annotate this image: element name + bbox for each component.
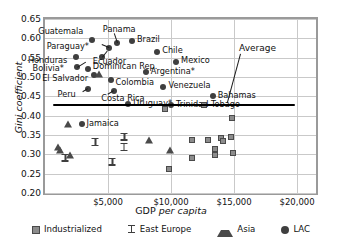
gridline-horizontal bbox=[45, 154, 316, 155]
triangle-marker-icon bbox=[217, 222, 233, 237]
data-point-square[interactable] bbox=[212, 152, 218, 158]
gini-gdp-scatter-chart: Gini coefficient GDP per capita 0.200.25… bbox=[0, 0, 342, 241]
data-point-circle[interactable] bbox=[108, 77, 114, 83]
data-point-square[interactable] bbox=[189, 137, 195, 143]
data-point-square[interactable] bbox=[229, 115, 235, 121]
x-axis-tick-label: $20,000 bbox=[280, 197, 315, 207]
data-point-square[interactable] bbox=[189, 155, 195, 161]
data-point-square[interactable] bbox=[220, 138, 226, 144]
data-point-ibar[interactable] bbox=[62, 154, 69, 162]
data-point-label: Bolivia* bbox=[33, 64, 64, 72]
y-axis-tick-label: 0.25 bbox=[21, 169, 41, 179]
data-point-label: Venezuela bbox=[168, 81, 210, 89]
x-axis-tick-label: $5,000 bbox=[93, 197, 123, 207]
ibar-marker-icon bbox=[128, 225, 136, 233]
data-point-triangle[interactable] bbox=[56, 147, 64, 154]
average-annotation-label: Average bbox=[239, 43, 276, 53]
gridline-horizontal bbox=[45, 135, 316, 136]
legend-label-lac: LAC bbox=[293, 224, 310, 234]
data-point-triangle[interactable] bbox=[95, 70, 103, 77]
legend-label-asia: Asia bbox=[237, 224, 255, 234]
data-point-circle[interactable] bbox=[173, 59, 179, 65]
data-point-square[interactable] bbox=[228, 134, 234, 140]
data-point-triangle[interactable] bbox=[145, 136, 153, 143]
data-point-label: Brazil bbox=[137, 35, 160, 43]
legend-item-asia[interactable]: Asia bbox=[217, 221, 255, 237]
chart-legend: Industrialized East Europe Asia LAC bbox=[0, 221, 342, 237]
data-point-square[interactable] bbox=[166, 166, 172, 172]
data-point-square[interactable] bbox=[162, 106, 168, 112]
data-point-circle[interactable] bbox=[73, 54, 79, 60]
data-point-triangle[interactable] bbox=[166, 147, 174, 154]
data-point-circle[interactable] bbox=[85, 66, 91, 72]
gridline-horizontal bbox=[45, 38, 316, 39]
data-point-square[interactable] bbox=[205, 137, 211, 143]
data-point-label: Paraguay* bbox=[47, 42, 89, 50]
data-point-label: Chile bbox=[162, 46, 183, 54]
legend-label-industrialized: Industrialized bbox=[44, 224, 102, 234]
gridline-horizontal bbox=[45, 174, 316, 175]
legend-label-east-europe: East Europe bbox=[140, 224, 192, 234]
data-point-triangle[interactable] bbox=[64, 121, 72, 128]
gridline-vertical bbox=[297, 19, 298, 193]
data-point-circle[interactable] bbox=[129, 38, 135, 44]
y-axis-tick-label: 0.35 bbox=[21, 130, 41, 140]
y-axis-tick-label: 0.45 bbox=[21, 91, 41, 101]
data-point-ibar[interactable] bbox=[120, 143, 127, 151]
circle-marker-icon bbox=[281, 226, 289, 234]
data-point-label: Jamaica bbox=[87, 119, 119, 127]
legend-item-industrialized[interactable]: Industrialized bbox=[32, 224, 102, 234]
square-marker-icon bbox=[32, 226, 40, 234]
data-point-square[interactable] bbox=[230, 150, 236, 156]
data-point-label: Peru bbox=[57, 90, 75, 98]
gridline-horizontal bbox=[45, 116, 316, 117]
data-point-label: Colombia bbox=[116, 78, 154, 86]
data-point-circle[interactable] bbox=[79, 121, 85, 127]
x-axis-tick-label: $15,000 bbox=[216, 197, 251, 207]
data-point-label: Mexico bbox=[181, 56, 210, 64]
plot-area: 0.200.250.300.350.400.450.500.550.600.65… bbox=[43, 17, 318, 195]
data-point-square[interactable] bbox=[212, 146, 218, 152]
y-axis-tick-label: 0.65 bbox=[21, 14, 41, 24]
x-axis-tick-label: $10,000 bbox=[153, 197, 188, 207]
data-point-circle[interactable] bbox=[143, 69, 149, 75]
data-point-ibar[interactable] bbox=[92, 138, 99, 146]
data-point-ibar[interactable] bbox=[121, 133, 128, 141]
gridline-horizontal bbox=[45, 193, 316, 194]
gridline-horizontal bbox=[45, 19, 316, 20]
data-point-label: Guatemala bbox=[38, 27, 83, 35]
data-point-label: Argentina* bbox=[151, 67, 195, 75]
data-point-label: El Salvador bbox=[42, 74, 88, 82]
legend-item-lac[interactable]: LAC bbox=[281, 224, 310, 234]
data-point-ibar[interactable] bbox=[109, 158, 116, 166]
y-axis-tick-label: 0.30 bbox=[21, 149, 41, 159]
y-axis-tick-label: 0.20 bbox=[21, 188, 41, 198]
gridline-horizontal bbox=[45, 96, 316, 97]
y-axis-tick-label: 0.50 bbox=[21, 72, 41, 82]
data-point-circle[interactable] bbox=[89, 37, 95, 43]
data-point-label: Panama bbox=[103, 25, 136, 33]
data-point-circle[interactable] bbox=[154, 49, 160, 55]
data-point-circle[interactable] bbox=[160, 84, 166, 90]
data-point-label: Dominican Rep. bbox=[93, 62, 158, 70]
legend-item-east-europe[interactable]: East Europe bbox=[128, 224, 192, 234]
y-axis-tick-label: 0.40 bbox=[21, 111, 41, 121]
